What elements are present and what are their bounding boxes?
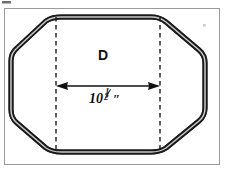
scan-speck-top-left-icon — [2, 1, 11, 4]
dimension-whole-number: 10 — [89, 91, 103, 106]
dimension-fraction: 12 — [103, 89, 113, 103]
figure-container: D 1012″ — [0, 0, 225, 170]
octagon-interior — [14, 20, 202, 149]
shape-label: D — [98, 48, 108, 62]
dimension-label: 1012″ — [89, 89, 120, 106]
scan-speck-top-right-icon — [203, 24, 206, 27]
fraction-denominator: 2 — [104, 93, 109, 102]
inch-symbol: ″ — [113, 91, 120, 106]
octagon-dimension-diagram — [0, 0, 225, 170]
